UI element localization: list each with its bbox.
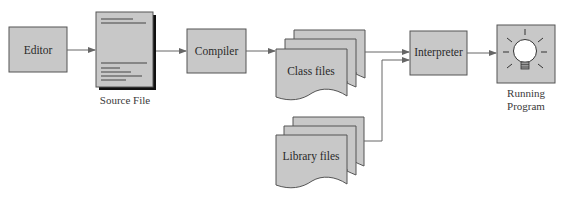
edge-library-files-to-interpreter [364, 60, 409, 141]
interpreter-node: Interpreter [410, 31, 467, 75]
running-program-node: Running Program [497, 25, 555, 112]
compiler-node: Compiler [187, 29, 246, 73]
editor-node: Editor [9, 27, 67, 72]
library-files-label: Library files [282, 150, 340, 163]
interpreter-label: Interpreter [414, 46, 463, 59]
source-file-node: Source File [96, 12, 156, 106]
compiler-label: Compiler [195, 45, 239, 58]
class-files-label: Class files [287, 65, 335, 77]
class-files-node: Class files [276, 30, 365, 100]
library-files-node: Library files [276, 117, 364, 188]
editor-label: Editor [24, 44, 53, 56]
running-program-caption-line2: Program [507, 100, 545, 112]
java-program-flow-diagram: Editor Source File Compiler Class files [0, 0, 564, 201]
running-program-caption-line1: Running [507, 87, 545, 99]
source-file-caption: Source File [100, 94, 151, 106]
